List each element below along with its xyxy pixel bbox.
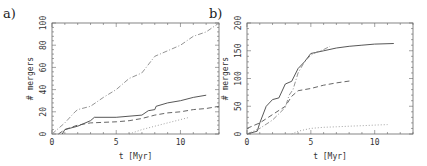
panel-label: a) [3, 6, 16, 21]
x-tick-label: 5 [114, 138, 119, 147]
series-dashed [247, 81, 352, 129]
chart-panel-b: b)0510050100150200t [Myr]# mergers [209, 6, 413, 161]
series-dotted [292, 125, 388, 134]
y-axis-label: # mergers [221, 57, 230, 101]
y-tick-label: 0 [234, 131, 243, 136]
y-axis-label: # mergers [26, 57, 35, 101]
y-tick-label: 20 [39, 107, 48, 117]
y-tick-label: 80 [39, 40, 48, 50]
x-tick-label: 0 [245, 138, 250, 147]
series-solid [62, 95, 206, 134]
panel-label: b) [209, 6, 222, 21]
series-dashed [58, 106, 219, 134]
x-axis-label: t [Myr] [313, 152, 347, 161]
series-solid [247, 44, 394, 135]
x-tick-label: 10 [176, 138, 186, 147]
series-dash-dot [247, 46, 330, 134]
y-tick-label: 50 [234, 101, 243, 111]
y-tick-label: 100 [39, 16, 48, 31]
plot-frame [247, 23, 413, 134]
y-tick-label: 200 [234, 16, 243, 31]
x-tick-label: 5 [308, 138, 313, 147]
chart-panel-a: a)0510020406080100t [Myr]# mergers [3, 6, 219, 161]
x-tick-label: 10 [370, 138, 380, 147]
y-tick-label: 0 [39, 131, 48, 136]
x-axis-label: t [Myr] [119, 152, 153, 161]
x-tick-label: 0 [50, 138, 55, 147]
plot-frame [52, 23, 219, 134]
y-tick-label: 40 [39, 85, 48, 95]
series-dash-dot [52, 23, 219, 134]
y-tick-label: 60 [39, 62, 48, 72]
y-tick-label: 150 [234, 43, 243, 58]
figure: a)0510020406080100t [Myr]# mergersb)0510… [0, 0, 427, 166]
y-tick-label: 100 [234, 71, 243, 86]
